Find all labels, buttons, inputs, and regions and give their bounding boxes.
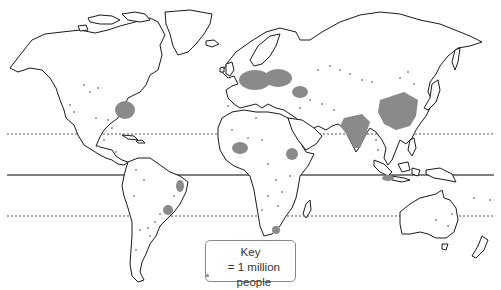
iceland <box>206 40 219 47</box>
british-isles <box>220 62 234 76</box>
australia-landmass <box>400 190 458 238</box>
greenland <box>165 10 212 55</box>
new-zealand <box>472 236 488 258</box>
key-title: Key <box>206 245 295 260</box>
south-america-landmass <box>122 158 188 282</box>
new-guinea <box>426 168 456 182</box>
map-key: Key = 1 million people <box>205 240 296 282</box>
key-label: = 1 million people <box>213 260 295 290</box>
tasmania <box>442 244 448 250</box>
key-entry: = 1 million people <box>206 260 295 290</box>
madagascar <box>303 200 311 218</box>
population-dot-icon <box>206 274 209 277</box>
indonesia <box>374 160 420 182</box>
caribbean-islands <box>122 135 145 143</box>
